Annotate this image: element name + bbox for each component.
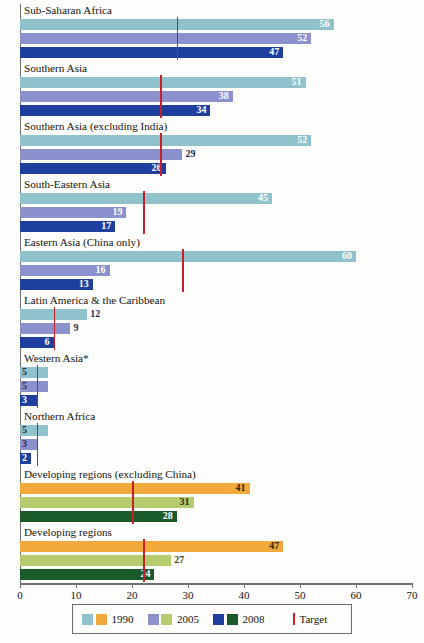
x-tick <box>244 583 245 588</box>
bar-value-label: 16 <box>93 264 106 276</box>
bar-2008 <box>20 569 154 580</box>
bar-2005 <box>20 91 233 102</box>
bar-value-label: 3 <box>22 394 27 406</box>
bar-value-label: 5 <box>22 424 27 436</box>
bar-value-label: 27 <box>174 554 184 566</box>
legend-swatch <box>161 614 172 625</box>
bar-row: 5 <box>20 367 412 378</box>
plot-area: Sub-Saharan Africa565247Southern Asia513… <box>20 0 412 583</box>
legend-swatch <box>213 614 224 625</box>
legend-swatch <box>82 614 93 625</box>
bar-row: 6 <box>20 337 412 348</box>
x-tick <box>300 583 301 588</box>
bar-row: 51 <box>20 77 412 88</box>
group-label: Developing regions <box>24 526 112 538</box>
bar-value-label: 19 <box>109 206 122 218</box>
bar-row: 47 <box>20 47 412 58</box>
bar-1990 <box>20 541 283 552</box>
bar-2005 <box>20 149 182 160</box>
bar-value-label: 47 <box>266 540 279 552</box>
bar-row: 5 <box>20 425 412 436</box>
bar-group: Northern Africa532 <box>20 410 412 468</box>
bar-value-label: 47 <box>266 46 279 58</box>
bar-value-label: 17 <box>98 220 111 232</box>
legend-item-1990[interactable]: 1990 <box>82 613 134 625</box>
x-tick-label: 10 <box>71 589 82 602</box>
bar-1990 <box>20 135 311 146</box>
group-label: Southern Asia (excluding India) <box>24 120 167 132</box>
bar-row: 29 <box>20 149 412 160</box>
bar-1990 <box>20 193 272 204</box>
bar-group: Sub-Saharan Africa565247 <box>20 4 412 62</box>
bar-value-label: 51 <box>289 76 302 88</box>
bar-row: 26 <box>20 163 412 174</box>
bar-row: 24 <box>20 569 412 580</box>
bar-value-label: 38 <box>216 90 229 102</box>
bar-group: Western Asia*553 <box>20 352 412 410</box>
bar-row: 34 <box>20 105 412 116</box>
bar-group: Southern Asia (excluding India)522926 <box>20 120 412 178</box>
bar-group: Southern Asia513834 <box>20 62 412 120</box>
legend-label: Target <box>300 613 328 625</box>
bar-value-label: 28 <box>160 510 173 522</box>
target-line <box>132 481 134 524</box>
bar-value-label: 56 <box>317 18 330 30</box>
bar-row: 3 <box>20 439 412 450</box>
bar-value-label: 5 <box>22 366 27 378</box>
bar-row: 38 <box>20 91 412 102</box>
bar-row: 19 <box>20 207 412 218</box>
bar-1990 <box>20 77 306 88</box>
bar-row: 47 <box>20 541 412 552</box>
target-line <box>143 191 145 234</box>
group-label: South-Eastern Asia <box>24 178 110 190</box>
bar-row: 52 <box>20 135 412 146</box>
bar-row: 56 <box>20 19 412 30</box>
x-tick-label: 70 <box>407 589 418 602</box>
bar-row: 31 <box>20 497 412 508</box>
legend-swatch <box>227 614 238 625</box>
legend-item-target[interactable]: Target <box>293 613 328 625</box>
bar-value-label: 6 <box>37 336 50 348</box>
x-tick <box>412 583 413 588</box>
legend-item-2005[interactable]: 2005 <box>148 613 200 625</box>
target-line <box>143 539 145 582</box>
bar-row: 27 <box>20 555 412 566</box>
bar-value-label: 5 <box>22 380 27 392</box>
group-label: Latin America & the Caribbean <box>24 294 165 306</box>
x-tick <box>20 583 21 588</box>
legend-label: 2008 <box>243 613 265 625</box>
bar-row: 16 <box>20 265 412 276</box>
bar-value-label: 52 <box>294 32 307 44</box>
bar-2008 <box>20 47 283 58</box>
bar-2005 <box>20 33 311 44</box>
bar-row: 5 <box>20 381 412 392</box>
group-label: Northern Africa <box>24 410 95 422</box>
bar-value-label: 3 <box>22 438 27 450</box>
legend-item-2008[interactable]: 2008 <box>213 613 265 625</box>
bar-group: Latin America & the Caribbean1296 <box>20 294 412 352</box>
target-line-icon <box>293 613 295 625</box>
bar-row: 12 <box>20 309 412 320</box>
bar-value-label: 31 <box>177 496 190 508</box>
x-tick <box>76 583 77 588</box>
bar-row: 52 <box>20 33 412 44</box>
target-line <box>54 307 56 350</box>
bar-2005 <box>20 323 70 334</box>
bar-group: Developing regions (excluding China)4131… <box>20 468 412 526</box>
bar-value-label: 2 <box>22 452 27 464</box>
x-tick-label: 40 <box>239 589 250 602</box>
bar-row: 41 <box>20 483 412 494</box>
bar-row: 28 <box>20 511 412 522</box>
target-line <box>160 133 162 176</box>
x-tick <box>356 583 357 588</box>
bar-group: South-Eastern Asia451917 <box>20 178 412 236</box>
bar-row: 9 <box>20 323 412 334</box>
group-label: Eastern Asia (China only) <box>24 236 140 248</box>
bar-row: 13 <box>20 279 412 290</box>
x-axis-line <box>20 583 412 585</box>
bar-row: 2 <box>20 453 412 464</box>
bar-2008 <box>20 511 177 522</box>
bar-row: 17 <box>20 221 412 232</box>
bar-value-label: 29 <box>185 148 195 160</box>
bar-row: 45 <box>20 193 412 204</box>
